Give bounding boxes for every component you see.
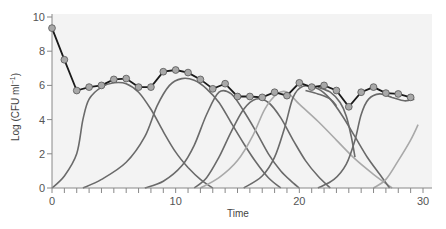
data-point-marker (333, 87, 340, 94)
y-tick-label: 10 (33, 11, 45, 23)
data-point-marker (123, 75, 130, 82)
plot-background (52, 14, 432, 188)
data-point-marker (271, 89, 278, 96)
data-point-marker (209, 85, 216, 92)
data-point-marker (172, 67, 179, 74)
x-axis-title: Time (227, 208, 249, 219)
data-point-marker (160, 68, 167, 75)
data-point-marker (234, 93, 241, 100)
data-point-marker (222, 80, 229, 87)
y-tick-label: 0 (39, 182, 45, 194)
x-tick-label: 10 (170, 195, 182, 207)
data-point-marker (98, 82, 105, 89)
data-point-marker (135, 84, 142, 91)
data-point-marker (246, 93, 253, 100)
data-point-marker (407, 94, 414, 101)
data-point-marker (345, 103, 352, 110)
x-tick-label: 0 (49, 195, 55, 207)
data-point-marker (321, 82, 328, 89)
data-point-marker (383, 90, 390, 97)
data-point-marker (110, 76, 117, 83)
data-point-marker (296, 79, 303, 86)
y-tick-label: 4 (39, 114, 45, 126)
data-point-marker (259, 94, 266, 101)
x-tick-label: 30 (417, 195, 429, 207)
data-point-marker (61, 56, 68, 63)
data-point-marker (49, 25, 56, 32)
y-tick-label: 2 (39, 148, 45, 160)
data-point-marker (73, 87, 80, 94)
data-point-marker (358, 89, 365, 96)
data-point-marker (86, 84, 93, 91)
data-point-marker (185, 69, 192, 76)
data-point-marker (308, 84, 315, 91)
data-point-marker (395, 91, 402, 98)
x-tick-label: 20 (293, 195, 305, 207)
data-point-marker (197, 76, 204, 83)
data-point-marker (284, 92, 291, 99)
y-tick-label: 8 (39, 45, 45, 57)
y-tick-label: 6 (39, 79, 45, 91)
data-point-marker (148, 84, 155, 91)
data-point-marker (370, 84, 377, 91)
population-chart: 01020300246810 Time Log (CFU ml−1) (0, 0, 446, 229)
y-axis-title: Log (CFU ml−1) (9, 73, 21, 141)
